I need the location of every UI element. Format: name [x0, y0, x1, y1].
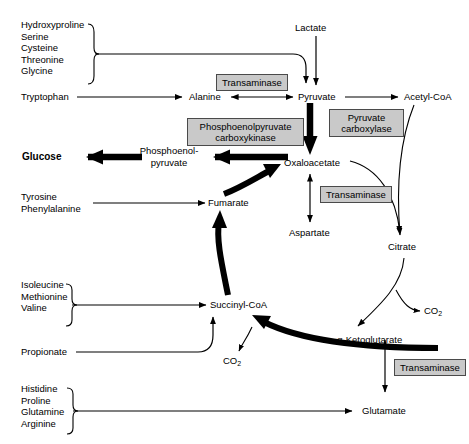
- aa-item: Threonine: [21, 54, 84, 66]
- aa-item: Hydroxyproline: [21, 19, 84, 31]
- metabolite-propionate: Propionate: [21, 346, 67, 358]
- arrow-pyruvate-to-oxaloacetate-thick: [303, 103, 318, 155]
- brace-aa-group-to-succinyl-coa: [66, 284, 77, 326]
- metabolite-oxaloacetate: Oxaloacetate: [284, 157, 340, 169]
- enzyme-box-transaminase-ketoglutarate[interactable]: Transaminase: [394, 359, 466, 376]
- amino-acid-group-to-glutamate: Histidine Proline Glutamine Arginine: [21, 383, 64, 429]
- co2-text: CO: [424, 305, 438, 316]
- arrow-succinyl-coa-to-fumarate-thick: [212, 210, 228, 295]
- metabolite-phenylalanine: Phenylalanine: [21, 203, 81, 215]
- enzyme-label: Transaminase: [400, 362, 460, 373]
- aa-item: Cysteine: [21, 42, 84, 54]
- metabolite-lactate: Lactate: [295, 22, 326, 34]
- enzyme-label: Transaminase: [222, 77, 282, 88]
- aa-item: Proline: [21, 395, 64, 407]
- pep-line-2: pyruvate: [130, 157, 208, 169]
- metabolic-pathway-diagram: Hydroxyproline Serine Cysteine Threonine…: [0, 0, 469, 444]
- metabolite-citrate: Citrate: [388, 241, 416, 253]
- metabolite-tyrosine: Tyrosine: [21, 191, 81, 203]
- metabolite-aspartate: Aspartate: [289, 227, 330, 239]
- arrow-fumarate-to-oxaloacetate-thick: [224, 164, 281, 194]
- metabolite-succinyl-coa: Succinyl-CoA: [210, 299, 267, 311]
- co2-subscript: 2: [237, 360, 241, 367]
- enzyme-label-line-2: carboxylase: [335, 123, 398, 135]
- enzyme-box-transaminase-oxaloacetate[interactable]: Transaminase: [320, 186, 392, 203]
- metabolite-alanine: Alanine: [189, 91, 221, 103]
- metabolite-co2-ketoglutarate: CO2: [223, 355, 241, 369]
- metabolite-tryptophan: Tryptophan: [21, 91, 69, 103]
- aa-item: Serine: [21, 31, 84, 43]
- metabolite-alpha-ketoglutarate: α-Ketoglutarate: [337, 334, 402, 346]
- metabolite-fumarate: Fumarate: [208, 197, 249, 209]
- aa-item: Arginine: [21, 418, 64, 430]
- aa-item: Glycine: [21, 65, 84, 77]
- metabolite-phosphoenolpyruvate: Phosphoenol- pyruvate: [130, 145, 208, 168]
- co2-subscript: 2: [438, 310, 442, 317]
- aa-item: Histidine: [21, 383, 64, 395]
- arrow-propionate-to-succinyl-coa: [76, 317, 213, 352]
- metabolite-glutamate: Glutamate: [362, 405, 406, 417]
- enzyme-label-line-1: Pyruvate: [335, 112, 398, 124]
- pep-line-1: Phosphoenol-: [130, 145, 208, 157]
- arrow-citrate-co2-branch: [396, 290, 420, 311]
- brace-aa-group-to-pyruvate: [88, 24, 99, 84]
- metabolite-pyruvate: Pyruvate: [298, 91, 336, 103]
- metabolite-glucose: Glucose: [22, 151, 61, 163]
- co2-text: CO: [223, 355, 237, 366]
- enzyme-label-line-2: carboxykinase: [193, 132, 298, 144]
- amino-acid-group-to-succinyl-coa: Isoleucine Methionine Valine: [21, 279, 67, 314]
- enzyme-box-pyruvate-carboxylase[interactable]: Pyruvate carboxylase: [329, 109, 404, 137]
- aa-item: Valine: [21, 302, 67, 314]
- arrow-oxaloacetate-to-pep-thick: [213, 150, 288, 165]
- enzyme-box-pep-carboxykinase[interactable]: Phosphoenolpyruvate carboxykinase: [187, 118, 304, 146]
- arrow-succinyl-coa-co2-branch: [239, 327, 252, 351]
- metabolite-tyrosine-phenylalanine: Tyrosine Phenylalanine: [21, 191, 81, 214]
- aa-item: Isoleucine: [21, 279, 67, 291]
- metabolite-co2-citrate: CO2: [424, 305, 442, 319]
- metabolite-acetyl-coa: Acetyl-CoA: [404, 91, 452, 103]
- brace-aa-group-to-glutamate: [67, 388, 78, 434]
- enzyme-box-transaminase-pyruvate[interactable]: Transaminase: [216, 74, 288, 91]
- enzyme-label: Transaminase: [326, 189, 386, 200]
- aa-item: Methionine: [21, 291, 67, 303]
- aa-item: Glutamine: [21, 406, 64, 418]
- enzyme-label-line-1: Phosphoenolpyruvate: [193, 121, 298, 133]
- amino-acid-group-to-pyruvate: Hydroxyproline Serine Cysteine Threonine…: [21, 19, 84, 77]
